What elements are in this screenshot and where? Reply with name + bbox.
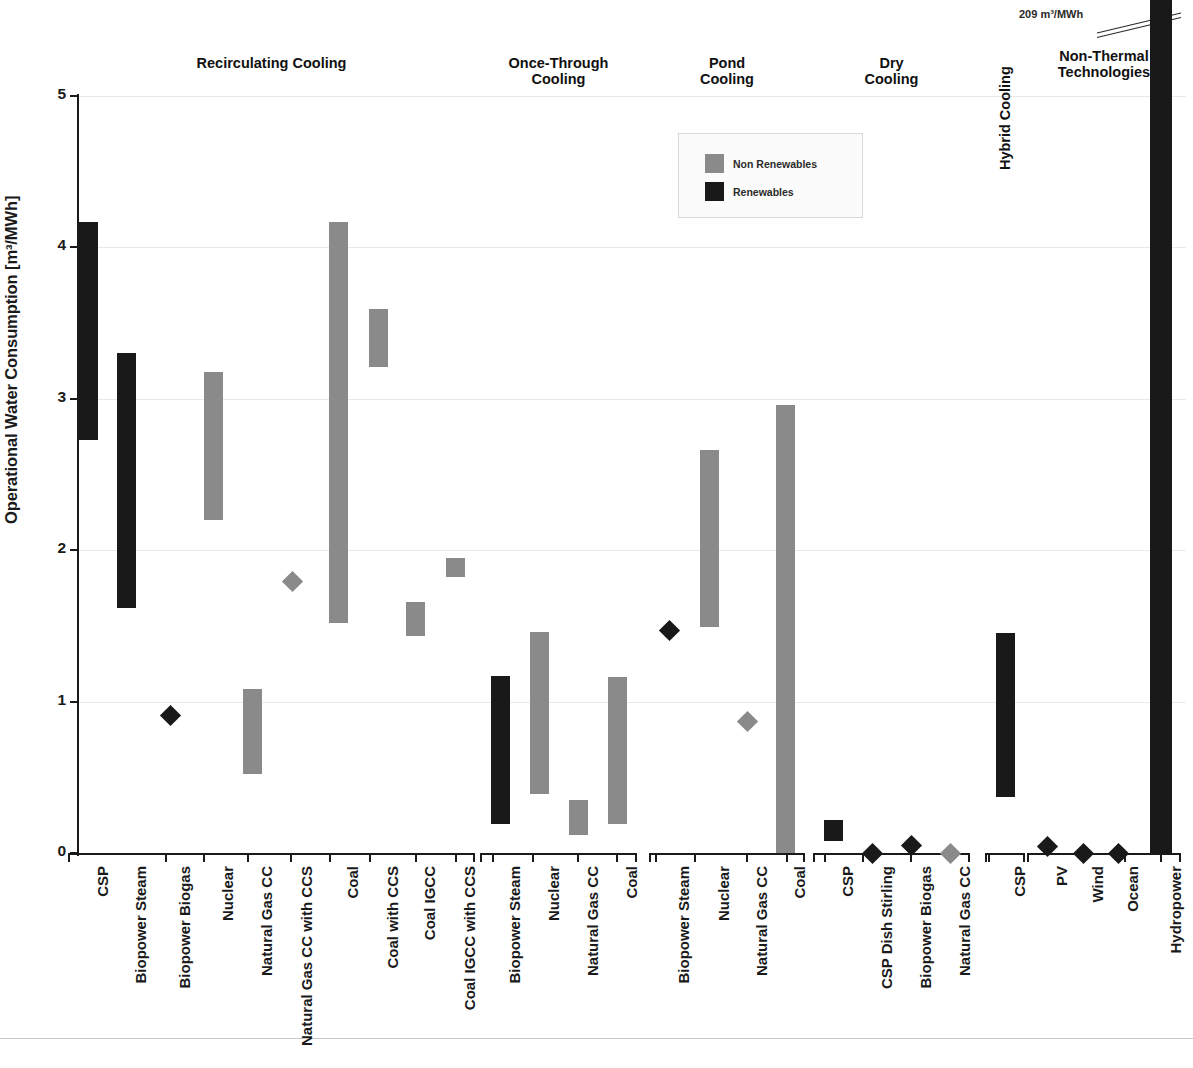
x-axis-label: Biopower Biogas <box>917 866 934 989</box>
range-bar <box>824 820 843 841</box>
legend-item-renewables: Renewables <box>705 182 794 201</box>
x-axis-label: CSP <box>1011 866 1028 897</box>
x-axis-label: PV <box>1053 866 1070 886</box>
group-bracket <box>985 853 1025 862</box>
legend-item-non-renewables: Non Renewables <box>705 154 817 173</box>
range-bar <box>530 632 549 794</box>
y-axis-tick-label: 4 <box>36 236 66 254</box>
x-axis-label: CSP Dish Stirling <box>878 866 895 989</box>
x-axis-label: Natural Gas CC with CCS <box>298 866 315 1046</box>
x-axis-label: CSP <box>839 866 856 897</box>
y-axis-tick-mark <box>70 95 78 97</box>
y-axis-title-text: Operational Water Consumption [m³/MWh] <box>2 124 21 524</box>
x-axis-label: Natural Gas CC <box>584 866 601 976</box>
group-header-once-through-cooling: Once-Through Cooling <box>474 55 644 87</box>
range-bar <box>608 677 627 824</box>
y-axis-tick-mark <box>70 701 78 703</box>
range-bar <box>369 309 388 367</box>
range-bar <box>117 353 136 607</box>
group-bracket <box>68 853 475 862</box>
legend-swatch-non-renewables <box>705 154 724 173</box>
y-axis-tick-label: 2 <box>36 539 66 557</box>
x-axis-label: Coal IGCC with CCS <box>461 866 478 1010</box>
footer-divider <box>0 1038 1193 1039</box>
range-bar <box>776 405 795 853</box>
range-bar <box>446 558 465 578</box>
x-axis-label: Biopower Steam <box>132 866 149 984</box>
x-axis-label: Nuclear <box>219 866 236 921</box>
gridline <box>78 247 1186 248</box>
range-bar <box>569 800 588 835</box>
range-bar <box>491 676 510 824</box>
x-axis-label: Natural Gas CC <box>753 866 770 976</box>
group-header-dry-cooling: Dry Cooling <box>822 55 962 87</box>
group-header-pond-cooling: Pond Cooling <box>657 55 797 87</box>
legend-label-renewables: Renewables <box>733 186 794 198</box>
y-axis-tick-mark <box>70 549 78 551</box>
hydropower-offscale-label: 209 m³/MWh <box>1019 8 1083 20</box>
group-bracket <box>480 853 637 862</box>
range-bar <box>406 602 425 637</box>
legend-swatch-renewables <box>705 182 724 201</box>
y-axis-tick-mark <box>70 852 78 854</box>
range-bar <box>1150 0 1172 853</box>
group-header-hybrid-cooling: Hybrid Cooling <box>997 43 1013 193</box>
group-bracket <box>649 853 805 862</box>
y-axis-title: Operational Water Consumption [m³/MWh] <box>2 0 28 136</box>
range-bar <box>329 222 348 623</box>
y-axis-tick-label: 5 <box>36 85 66 103</box>
x-axis-label: Biopower Biogas <box>176 866 193 989</box>
x-axis-label: Wind <box>1089 866 1106 903</box>
x-axis-label: Natural Gas CC <box>956 866 973 976</box>
x-axis-label: Coal <box>791 866 808 899</box>
x-axis-label: Coal IGCC <box>421 866 438 940</box>
x-axis-label: Hydropower <box>1167 866 1184 954</box>
y-axis-tick-label: 3 <box>36 388 66 406</box>
x-axis-label: CSP <box>94 866 111 897</box>
x-axis-label: Nuclear <box>545 866 562 921</box>
group-header-recirculating-cooling: Recirculating Cooling <box>142 55 402 71</box>
legend: Non Renewables Renewables <box>678 133 863 218</box>
x-axis-label: Nuclear <box>715 866 732 921</box>
range-bar <box>204 372 223 520</box>
chart-canvas: Operational Water Consumption [m³/MWh] R… <box>0 0 1193 1068</box>
x-axis-label: Biopower Steam <box>675 866 692 984</box>
range-bar <box>996 633 1015 797</box>
x-axis-label: Coal with CCS <box>384 866 401 969</box>
range-bar <box>243 689 262 774</box>
range-bar <box>79 222 98 440</box>
y-axis-tick-label: 1 <box>36 691 66 709</box>
gridline <box>78 399 1186 400</box>
y-axis-tick-mark <box>70 246 78 248</box>
x-axis-line <box>78 853 1186 855</box>
range-bar <box>700 450 719 627</box>
x-axis-label: Coal <box>623 866 640 899</box>
gridline <box>78 550 1186 551</box>
x-axis-label: Natural Gas CC <box>258 866 275 976</box>
x-axis-label: Ocean <box>1124 866 1141 912</box>
x-axis-label: Coal <box>344 866 361 899</box>
legend-label-non-renewables: Non Renewables <box>733 158 817 170</box>
gridline <box>78 96 1186 97</box>
y-axis-tick-mark <box>70 398 78 400</box>
y-axis-line <box>77 94 79 856</box>
x-axis-label: Biopower Steam <box>506 866 523 984</box>
y-axis-tick-label: 0 <box>36 842 66 860</box>
